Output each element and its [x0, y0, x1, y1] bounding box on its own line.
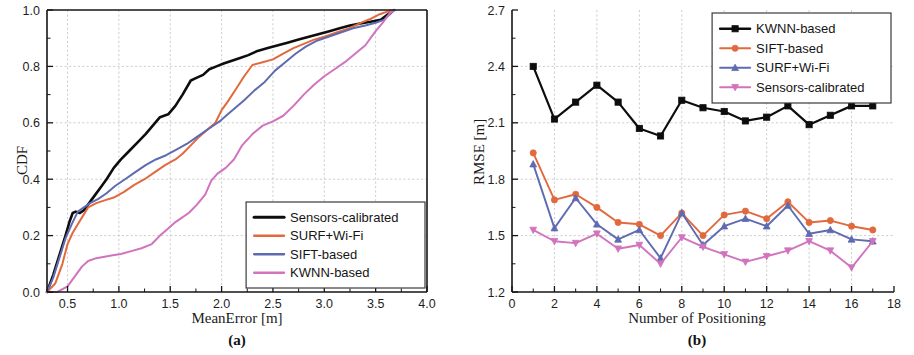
- data-point: [785, 103, 791, 109]
- legend-label: KWNN-based: [290, 265, 369, 280]
- x-tick-label: 4.0: [418, 297, 435, 311]
- y-tick-label: 1.5: [488, 229, 505, 243]
- x-tick-label: 16: [845, 297, 859, 311]
- data-point: [848, 103, 854, 109]
- panel-b-rmse-chart: 0246810121416181.21.51.82.12.42.7KWNN-ba…: [457, 0, 914, 355]
- legend-label: SIFT-based: [290, 247, 357, 262]
- x-tick-label: 0.5: [59, 297, 76, 311]
- legend-label: SURF+Wi-Fi: [290, 228, 363, 243]
- x-tick-label: 10: [717, 297, 731, 311]
- y-tick-label: 0.0: [23, 286, 40, 300]
- data-point: [764, 114, 770, 120]
- x-tick-label: 18: [887, 297, 901, 311]
- x-tick-label: 4: [593, 297, 600, 311]
- x-tick-label: 1.5: [162, 297, 179, 311]
- data-point: [721, 108, 727, 114]
- data-point: [530, 150, 536, 156]
- data-point: [742, 118, 748, 124]
- x-tick-label: 12: [760, 297, 774, 311]
- data-point: [848, 223, 854, 229]
- data-point: [573, 99, 579, 105]
- x-tick-label: 8: [678, 297, 685, 311]
- data-point: [615, 99, 621, 105]
- legend[interactable]: KWNN-basedSIFT-basedSURF+Wi-FiSensors-ca…: [712, 13, 891, 103]
- panel-a-plot: 0.51.01.52.02.53.03.54.00.00.20.40.60.81…: [0, 0, 457, 320]
- legend-label: SIFT-based: [756, 41, 823, 56]
- y-tick-label: 2.7: [488, 4, 505, 18]
- data-point: [827, 112, 833, 118]
- data-point: [870, 103, 876, 109]
- data-point: [657, 233, 663, 239]
- data-point: [742, 259, 749, 265]
- legend[interactable]: Sensors-calibratedSURF+Wi-FiSIFT-basedKW…: [246, 202, 425, 288]
- data-point: [742, 215, 749, 221]
- data-point: [657, 261, 664, 267]
- y-tick-label: 2.1: [488, 116, 505, 130]
- panel-a-y-axis-title: CDF: [14, 146, 31, 175]
- figure-container: 0.51.01.52.02.53.03.54.00.00.20.40.60.81…: [0, 0, 914, 355]
- panel-b-y-axis-title: RMSE [m]: [471, 119, 488, 185]
- data-point: [870, 227, 876, 233]
- x-tick-label: 2: [551, 297, 558, 311]
- x-tick-label: 1.0: [110, 297, 127, 311]
- data-point: [551, 116, 557, 122]
- series-line: [533, 153, 873, 236]
- data-point: [636, 226, 643, 232]
- legend-label: Sensors-calibrated: [290, 210, 398, 225]
- data-point: [764, 216, 770, 222]
- x-tick-label: 6: [636, 297, 643, 311]
- data-point: [636, 125, 642, 131]
- y-tick-label: 0.8: [23, 60, 40, 74]
- x-tick-label: 2.5: [264, 297, 281, 311]
- y-tick-label: 2.4: [488, 60, 505, 74]
- series-sift-based: [530, 150, 876, 239]
- legend-label: Sensors-calibrated: [756, 80, 864, 95]
- x-tick-label: 14: [802, 297, 816, 311]
- x-tick-label: 2.0: [213, 297, 230, 311]
- panel-b-plot: 0246810121416181.21.51.82.12.42.7KWNN-ba…: [457, 0, 914, 320]
- y-tick-label: 0.2: [23, 229, 40, 243]
- data-point: [827, 217, 833, 223]
- x-tick-label: 0: [509, 297, 516, 311]
- data-point: [551, 197, 557, 203]
- panel-a-caption: (a): [47, 332, 427, 349]
- data-point: [700, 233, 706, 239]
- data-point: [594, 204, 600, 210]
- data-point: [742, 208, 748, 214]
- data-point: [679, 97, 685, 103]
- data-point: [721, 212, 727, 218]
- data-point: [530, 63, 536, 69]
- data-point: [657, 133, 663, 139]
- panel-b-caption: (b): [502, 332, 892, 349]
- data-point: [732, 45, 738, 51]
- legend-label: SURF+Wi-Fi: [756, 60, 829, 75]
- data-point: [615, 219, 621, 225]
- panel-a-x-axis-title: MeanError [m]: [47, 310, 427, 327]
- y-tick-label: 1.2: [488, 286, 505, 300]
- data-point: [806, 219, 812, 225]
- x-tick-label: 3.5: [367, 297, 384, 311]
- data-point: [806, 122, 812, 128]
- y-tick-label: 1.8: [488, 173, 505, 187]
- y-tick-label: 1.0: [23, 4, 40, 18]
- x-tick-label: 3.0: [316, 297, 333, 311]
- data-point: [732, 26, 738, 32]
- data-point: [530, 161, 537, 167]
- data-point: [848, 265, 855, 271]
- panel-b-x-axis-title: Number of Positioning: [502, 310, 892, 327]
- legend-label: KWNN-based: [756, 21, 835, 36]
- y-tick-label: 0.6: [23, 116, 40, 130]
- data-point: [700, 105, 706, 111]
- panel-a-cdf-chart: 0.51.01.52.02.53.03.54.00.00.20.40.60.81…: [0, 0, 457, 355]
- data-point: [594, 82, 600, 88]
